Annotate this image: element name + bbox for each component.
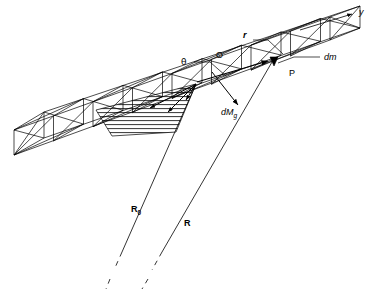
mass-element-dm-label: dm — [324, 52, 337, 62]
vector-r-label: r — [243, 30, 247, 40]
theta-label: θ — [181, 57, 187, 67]
y-axis-label: y — [358, 7, 364, 17]
point-P-label: P — [289, 68, 295, 78]
torque-dMg-label: dMg — [221, 107, 238, 120]
vector-r-arrow — [197, 61, 268, 82]
vector-R-label: R — [184, 218, 191, 228]
vector-R0-label: R0 — [131, 204, 142, 216]
gravity-gradient-diagram: y R0 R — [0, 0, 381, 292]
vector-dMg-arrow — [212, 72, 238, 105]
truss-structure — [14, 6, 360, 155]
truss-longerons — [14, 6, 360, 155]
diagram-canvas: y R0 R — [0, 0, 381, 292]
truss-bay-frames — [54, 19, 321, 141]
origin-O-label: O — [216, 50, 223, 60]
